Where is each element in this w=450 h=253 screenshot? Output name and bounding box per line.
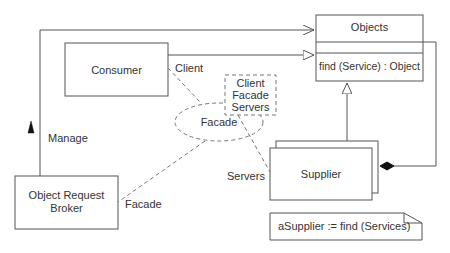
objects-class-name: Objects bbox=[316, 21, 423, 34]
manage-direction-arrow-icon bbox=[28, 121, 34, 133]
facade-collaboration-name: Facade bbox=[199, 116, 239, 129]
aggregation-diamond-icon bbox=[380, 162, 394, 170]
manage-label: Manage bbox=[48, 132, 88, 145]
client-role-label: Client bbox=[175, 62, 203, 75]
consumer-class-name: Consumer bbox=[65, 64, 168, 77]
orb-class-name-line2: Broker bbox=[15, 202, 118, 215]
collab-param-servers: Servers bbox=[225, 101, 276, 114]
note-text: aSupplier := find (Services) bbox=[278, 220, 410, 233]
servers-role-label: Servers bbox=[227, 170, 265, 183]
facade-role-label: Facade bbox=[125, 198, 162, 211]
objects-find-operation: find (Service) : Object bbox=[316, 60, 423, 73]
orb-class-name-line1: Object Request bbox=[15, 189, 118, 202]
supplier-class-name: Supplier bbox=[270, 168, 372, 181]
